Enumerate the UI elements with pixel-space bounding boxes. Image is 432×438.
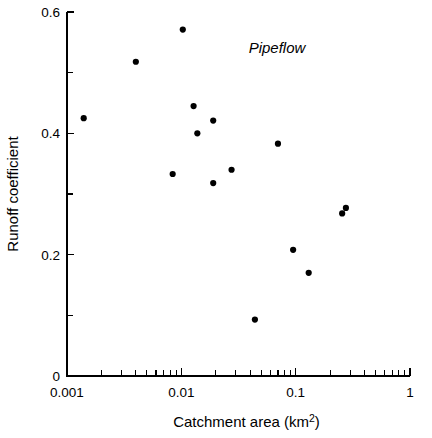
x-tick-label: 0.01 — [168, 385, 194, 400]
x-tick-label: 0.1 — [286, 385, 305, 400]
y-tick-label: 0.4 — [41, 126, 60, 141]
data-point — [180, 26, 186, 32]
x-axis-title-close: ) — [315, 413, 320, 430]
x-tick-label: 1 — [406, 385, 414, 400]
series-annotation-pipeflow: Pipeflow — [249, 39, 307, 56]
data-point — [210, 180, 216, 186]
y-tick-label: 0 — [52, 369, 60, 384]
y-axis-title: Runoff coefficient — [4, 135, 21, 251]
axis-frame — [67, 12, 410, 376]
x-tick-label: 0.001 — [50, 385, 84, 400]
data-point — [81, 115, 87, 121]
data-point — [339, 210, 345, 216]
scatter-plot-canvas: 00.20.40.60.0010.010.11PipeflowRunoff co… — [0, 0, 432, 438]
data-point — [194, 130, 200, 136]
series-pipeflow — [81, 26, 349, 322]
data-point — [228, 167, 234, 173]
data-point — [343, 205, 349, 211]
data-point — [210, 117, 216, 123]
y-tick-label: 0.6 — [41, 5, 60, 20]
data-point — [290, 247, 296, 253]
data-point — [190, 103, 196, 109]
chart-figure: 00.20.40.60.0010.010.11PipeflowRunoff co… — [0, 0, 432, 438]
x-axis-title-base: Catchment area (km — [173, 413, 309, 430]
data-point — [133, 59, 139, 65]
data-point — [170, 171, 176, 177]
data-point — [252, 316, 258, 322]
data-point — [275, 141, 281, 147]
data-point — [306, 270, 312, 276]
y-tick-label: 0.2 — [41, 248, 60, 263]
x-axis-title: Catchment area (km2) — [173, 412, 320, 430]
